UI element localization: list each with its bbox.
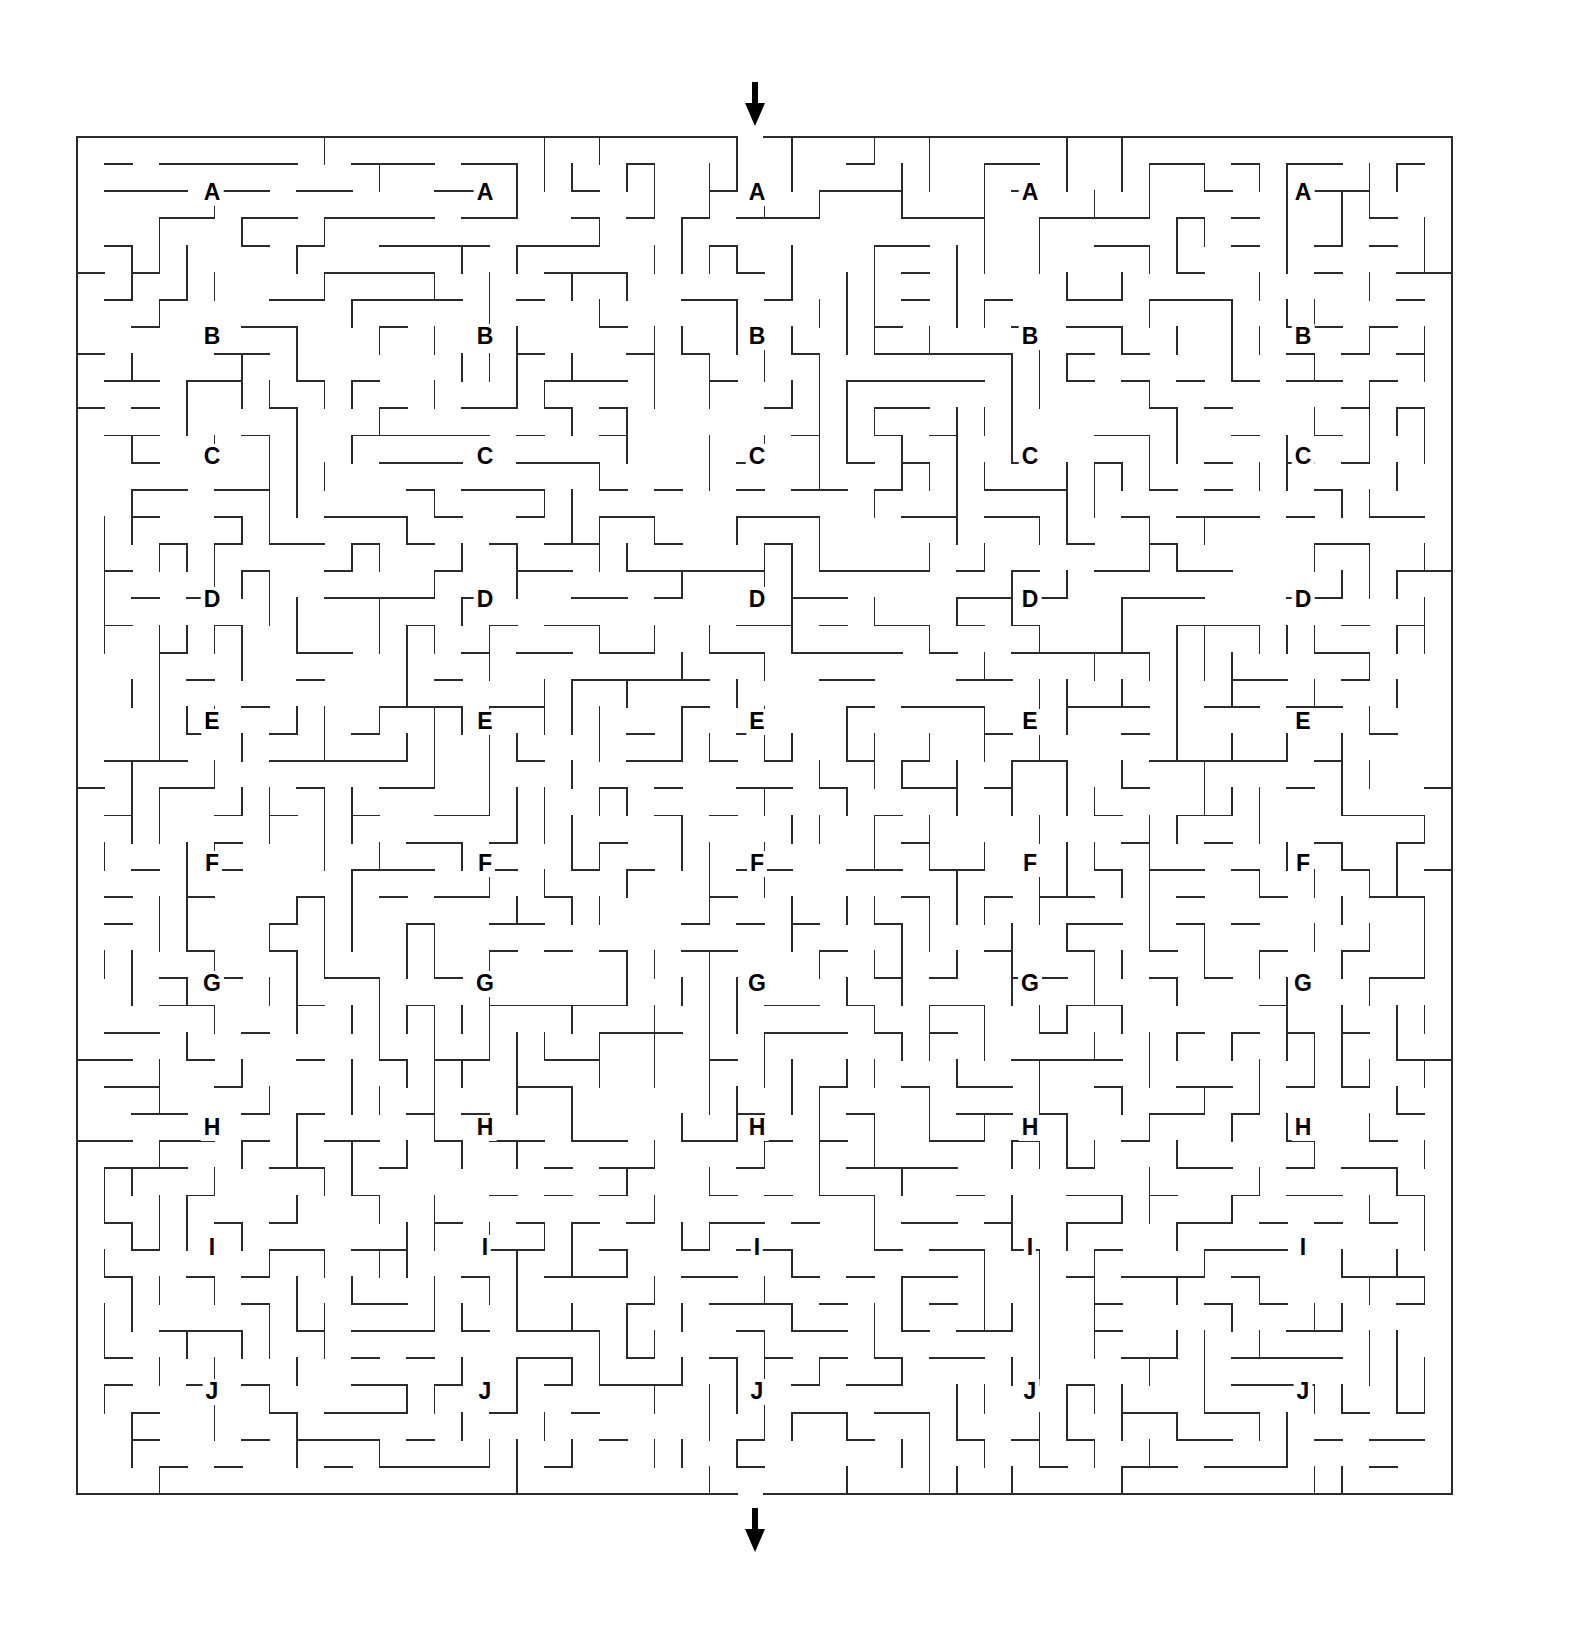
maze-label-b: B (1019, 324, 1042, 350)
maze-label-b: B (1292, 324, 1315, 350)
maze-label-b: B (746, 324, 769, 350)
maze-label-a: A (1292, 180, 1315, 206)
maze-label-e: E (201, 709, 222, 735)
maze-label-e: E (746, 709, 767, 735)
maze-label-e: E (474, 709, 495, 735)
maze-label-h: H (746, 1115, 769, 1141)
maze-label-g: G (200, 971, 224, 997)
maze-label-i: I (206, 1235, 218, 1261)
maze-label-h: H (1292, 1115, 1315, 1141)
maze-label-e: E (1292, 709, 1313, 735)
maze-label-i: I (1297, 1235, 1309, 1261)
maze-label-f: F (202, 851, 222, 877)
maze-label-a: A (746, 180, 769, 206)
maze-label-j: J (748, 1379, 767, 1405)
maze-label-g: G (1018, 971, 1042, 997)
maze-figure: AAAAABBBBBCCCCCDDDDDEEEEEFFFFFGGGGGHHHHH… (0, 0, 1575, 1633)
maze-label-d: D (474, 587, 497, 613)
maze-label-e: E (1019, 709, 1040, 735)
maze-label-g: G (745, 971, 769, 997)
maze-label-j: J (203, 1379, 222, 1405)
maze-label-f: F (1020, 851, 1040, 877)
maze-label-a: A (474, 180, 497, 206)
maze-label-j: J (1021, 1379, 1040, 1405)
maze-label-a: A (201, 180, 224, 206)
maze-drawing (0, 0, 1575, 1633)
maze-label-d: D (1292, 587, 1315, 613)
maze-label-d: D (1019, 587, 1042, 613)
maze-label-h: H (201, 1115, 224, 1141)
maze-label-g: G (1291, 971, 1315, 997)
maze-label-f: F (747, 851, 767, 877)
maze-label-a: A (1019, 180, 1042, 206)
maze-label-j: J (476, 1379, 495, 1405)
maze-label-b: B (201, 324, 224, 350)
maze-label-g: G (473, 971, 497, 997)
maze-label-d: D (201, 587, 224, 613)
maze-label-c: C (746, 444, 769, 470)
exit-arrow (745, 1508, 765, 1552)
maze-label-c: C (1019, 444, 1042, 470)
maze-label-i: I (479, 1235, 491, 1261)
maze-label-b: B (474, 324, 497, 350)
maze-label-h: H (474, 1115, 497, 1141)
maze-label-c: C (201, 444, 224, 470)
maze-label-i: I (1024, 1235, 1036, 1261)
page-root: AAAAABBBBBCCCCCDDDDDEEEEEFFFFFGGGGGHHHHH… (0, 0, 1575, 1633)
maze-label-d: D (746, 587, 769, 613)
maze-label-j: J (1294, 1379, 1313, 1405)
maze-label-f: F (1293, 851, 1313, 877)
entrance-arrow (745, 82, 765, 126)
maze-label-c: C (474, 444, 497, 470)
maze-label-h: H (1019, 1115, 1042, 1141)
maze-label-c: C (1292, 444, 1315, 470)
maze-label-f: F (475, 851, 495, 877)
maze-label-i: I (751, 1235, 763, 1261)
